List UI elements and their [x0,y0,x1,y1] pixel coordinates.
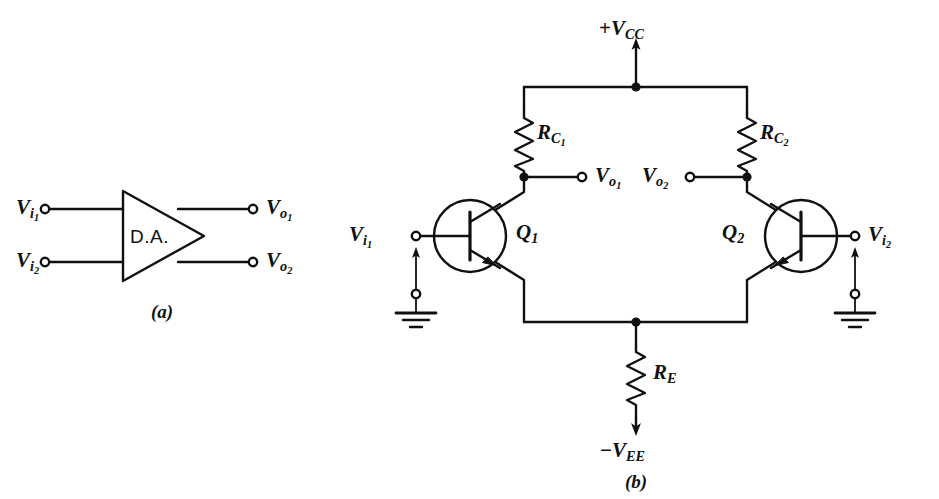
label-q2: Q2 [722,222,744,243]
node-vcc [631,82,640,91]
terminal-output-2 [249,258,257,266]
figure-canvas: Vi1 Vi2 Vo1 Vo2 D.A. (a) +VCC RC1 RC2 Vo… [0,0,939,499]
terminal-vo1 [578,173,586,181]
label-rc2: RC2 [760,122,789,143]
emitter-wire-q1 [492,260,524,322]
label-rc1: RC1 [537,122,566,143]
terminal-input-1 [41,205,49,213]
circuit-drawing [0,0,939,499]
label-vo1-panel-b: Vo1 [595,165,621,186]
label-vee: −VEE [600,440,645,461]
label-q1: Q1 [516,222,538,243]
resistor-re [627,322,645,418]
resistor-rc1 [515,112,533,177]
amplifier-block-label: D.A. [130,227,169,246]
terminal-ground-right [851,290,859,298]
label-vi2-panel-a: Vi2 [16,250,39,271]
emitter-wire-q2 [747,260,779,322]
label-vcc: +VCC [599,18,644,39]
figure-label-b: (b) [625,472,647,491]
label-vo2-panel-b: Vo2 [642,165,668,186]
terminal-ground-left [412,290,420,298]
terminal-vi1 [412,232,420,240]
label-vo1-panel-a: Vo1 [266,197,292,218]
panel-b-schematic [396,38,875,436]
terminal-output-1 [249,205,257,213]
label-vi1-panel-a: Vi1 [16,197,39,218]
label-vi1-panel-b: Vi1 [349,224,372,245]
label-vi2-panel-b: Vi2 [868,224,891,245]
terminal-vi2 [851,232,859,240]
resistor-rc2 [738,112,756,177]
label-re: RE [653,362,677,383]
terminal-input-2 [41,258,49,266]
terminal-vo2 [686,173,694,181]
figure-label-a: (a) [151,302,173,321]
label-vo2-panel-a: Vo2 [266,250,292,271]
